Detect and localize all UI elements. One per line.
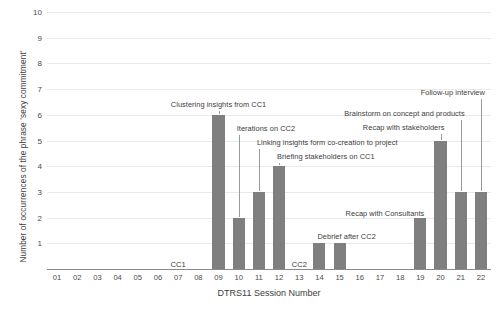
x-axis-tick-label: 05 (134, 273, 142, 282)
annotation-leader-line (259, 149, 260, 191)
annotation-label: Brainstorm on concept and products (344, 109, 464, 118)
gridline (47, 192, 491, 193)
y-axis-tick-label: 1 (38, 239, 42, 248)
annotation-label: Follow-up interview (421, 88, 485, 97)
annotation-leader-line (441, 134, 442, 140)
bar (434, 141, 446, 270)
bar (273, 166, 285, 269)
x-axis-tick-label: 20 (436, 273, 444, 282)
annotation-label: Linking insights form co-creation to pro… (257, 138, 398, 147)
x-axis-tick-label: 07 (174, 273, 182, 282)
phase-marker: CC2 (292, 260, 307, 269)
y-axis-tick-label: 5 (38, 136, 42, 145)
gridline (47, 12, 491, 13)
x-axis-tick-label: 10 (234, 273, 242, 282)
x-axis-tick-label: 15 (335, 273, 343, 282)
y-axis-tick-label: 6 (38, 110, 42, 119)
x-axis-tick-label: 06 (154, 273, 162, 282)
phase-marker: CC1 (171, 260, 186, 269)
bar (253, 192, 265, 269)
y-axis-title: Number of occurrences of the phrase 'sex… (19, 42, 28, 272)
x-axis-tick-label: 03 (93, 273, 101, 282)
x-axis-tick-label: 18 (396, 273, 404, 282)
bar (212, 115, 224, 269)
annotation-label: Recap with stakeholders (363, 123, 445, 132)
x-axis-tick-label: 22 (477, 273, 485, 282)
y-axis-tick-label: 4 (38, 162, 42, 171)
gridline (47, 38, 491, 39)
bar (313, 243, 325, 269)
x-axis-tick-label: 01 (53, 273, 61, 282)
annotation-leader-line (239, 135, 240, 217)
annotation-label: Clustering insights from CC1 (171, 100, 266, 109)
x-axis-tick-label: 13 (295, 273, 303, 282)
bar-chart: Number of occurrences of the phrase 'sex… (0, 0, 498, 322)
x-axis-tick-label: 08 (194, 273, 202, 282)
bar (233, 218, 245, 269)
annotation-leader-line (481, 99, 482, 191)
y-axis-tick-label: 8 (38, 59, 42, 68)
annotation-label: Recap with Consultants (346, 209, 425, 218)
x-axis-tick-label: 21 (456, 273, 464, 282)
annotation-leader-line (279, 163, 280, 165)
x-axis-tick-label: 12 (275, 273, 283, 282)
gridline (47, 166, 491, 167)
bar (414, 218, 426, 269)
y-axis-tick-label: 3 (38, 187, 42, 196)
x-axis-tick-label: 19 (416, 273, 424, 282)
bar (455, 192, 467, 269)
x-axis-tick-label: 14 (315, 273, 323, 282)
x-axis-title: DTRS11 Session Number (47, 288, 491, 298)
x-axis-tick-label: 17 (376, 273, 384, 282)
x-axis-tick-label: 04 (113, 273, 121, 282)
bar (475, 192, 487, 269)
annotation-leader-line (461, 120, 462, 191)
annotation-label: Briefing stakeholders on CC1 (277, 152, 375, 161)
x-axis-tick-label: 09 (214, 273, 222, 282)
x-axis-tick-label: 02 (73, 273, 81, 282)
y-axis-tick-label: 9 (38, 33, 42, 42)
annotation-label: Debrief after CC2 (317, 232, 375, 241)
y-axis-tick-label: 10 (33, 8, 42, 17)
annotation-label: Iterations on CC2 (237, 124, 295, 133)
x-axis-tick-label: 16 (356, 273, 364, 282)
gridline (47, 63, 491, 64)
annotation-leader-line (219, 111, 220, 114)
y-axis-tick-label: 2 (38, 213, 42, 222)
y-axis-tick-label: 7 (38, 85, 42, 94)
x-axis-tick-label: 11 (255, 273, 263, 282)
bar (334, 243, 346, 269)
x-axis-line (47, 269, 491, 270)
